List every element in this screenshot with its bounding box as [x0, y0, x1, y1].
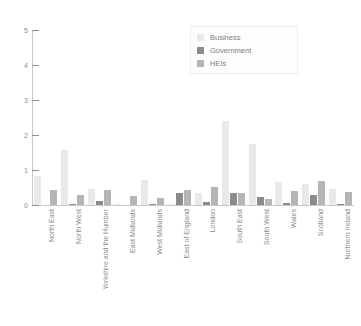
- y-axis-tick-label: 5: [16, 27, 28, 34]
- legend-label: Business: [210, 33, 240, 42]
- bar-business[interactable]: [114, 204, 121, 205]
- x-axis-label: Yorkshire and the Humber: [102, 209, 110, 290]
- bar-government[interactable]: [230, 193, 237, 205]
- x-axis-label: East Midlands: [129, 209, 137, 253]
- legend-label: HEIs: [210, 59, 226, 68]
- y-axis-tick-label: 3: [16, 97, 28, 104]
- bar-heis[interactable]: [318, 181, 325, 206]
- bar-business[interactable]: [61, 150, 68, 205]
- bar-heis[interactable]: [130, 196, 137, 205]
- legend-item-business[interactable]: Business: [197, 31, 291, 43]
- bar-heis[interactable]: [345, 192, 352, 205]
- bar-heis[interactable]: [157, 198, 164, 205]
- x-axis-label: West Midlands: [156, 209, 164, 255]
- y-axis-tick: [32, 205, 39, 206]
- bar-government[interactable]: [149, 204, 156, 205]
- bar-group: [302, 30, 325, 205]
- bar-group: [114, 30, 137, 205]
- bar-business[interactable]: [168, 204, 175, 205]
- bar-business[interactable]: [141, 180, 148, 205]
- bar-business[interactable]: [249, 144, 256, 205]
- bar-government[interactable]: [203, 202, 210, 205]
- bar-government[interactable]: [69, 204, 76, 205]
- bar-heis[interactable]: [184, 190, 191, 205]
- x-axis-label: North East: [48, 209, 56, 242]
- legend-swatch-icon: [197, 34, 204, 41]
- x-axis-label: North West: [75, 209, 83, 244]
- legend-label: Government: [210, 46, 251, 55]
- bar-heis[interactable]: [77, 195, 84, 206]
- x-axis-label: Wales: [290, 209, 298, 228]
- bar-government[interactable]: [283, 203, 290, 205]
- bar-government[interactable]: [310, 195, 317, 205]
- chart-legend: Business Government HEIs: [190, 26, 298, 74]
- x-axis-label: London: [209, 209, 217, 232]
- bar-business[interactable]: [88, 189, 95, 205]
- bar-group: [141, 30, 164, 205]
- bar-government[interactable]: [337, 204, 344, 205]
- bar-heis[interactable]: [238, 193, 245, 205]
- x-axis-line: [32, 205, 354, 206]
- bar-group: [34, 30, 57, 205]
- bar-heis[interactable]: [50, 190, 57, 205]
- legend-item-government[interactable]: Government: [197, 44, 291, 56]
- bar-group: [61, 30, 84, 205]
- bar-business[interactable]: [222, 121, 229, 205]
- y-axis-tick-label: 1: [16, 167, 28, 174]
- bar-group: [329, 30, 352, 205]
- bar-business[interactable]: [195, 193, 202, 205]
- x-axis-label: Northern Ireland: [344, 209, 352, 260]
- bar-heis[interactable]: [211, 187, 218, 205]
- x-axis-label: South East: [236, 209, 244, 243]
- legend-item-heis[interactable]: HEIs: [197, 57, 291, 69]
- y-axis-tick-label: 0: [16, 202, 28, 209]
- bar-government[interactable]: [96, 201, 103, 205]
- bar-business[interactable]: [34, 176, 41, 205]
- bar-business[interactable]: [302, 184, 309, 205]
- y-axis-tick-label: 4: [16, 62, 28, 69]
- bar-group: [88, 30, 111, 205]
- y-axis-tick-label: 2: [16, 132, 28, 139]
- legend-swatch-icon: [197, 60, 204, 67]
- x-axis-label: Scotland: [317, 209, 325, 236]
- bar-heis[interactable]: [104, 190, 111, 205]
- bar-business[interactable]: [329, 189, 336, 205]
- x-axis-label: East of England: [183, 209, 191, 258]
- legend-swatch-icon: [197, 47, 204, 54]
- bar-group: [168, 30, 191, 205]
- bar-heis[interactable]: [265, 199, 272, 205]
- x-axis-label: South West: [263, 209, 271, 245]
- bar-business[interactable]: [275, 182, 282, 205]
- bar-government[interactable]: [176, 193, 183, 205]
- bar-chart: 012345 North EastNorth WestYorkshire and…: [0, 0, 361, 326]
- bar-government[interactable]: [257, 197, 264, 205]
- bar-heis[interactable]: [291, 191, 298, 205]
